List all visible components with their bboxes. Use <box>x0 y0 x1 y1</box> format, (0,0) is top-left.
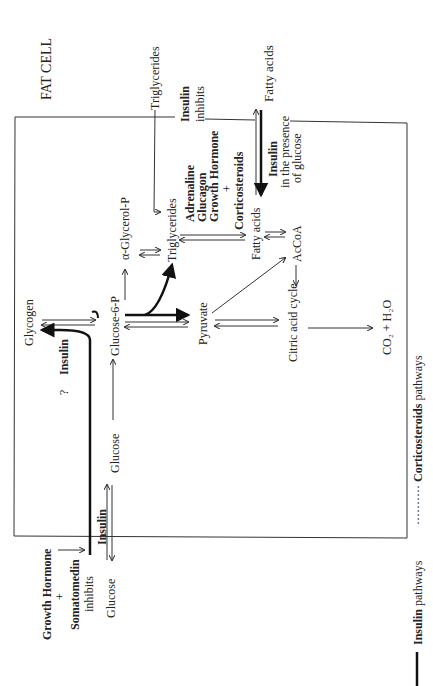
legend-corticosteroids-suffix: pathways <box>411 355 425 403</box>
legend-insulin-label: Insulin <box>411 609 425 645</box>
node-pyruvate: Pyruvate <box>196 302 210 345</box>
label-lipolysis-hormone-4: Corticosteroids <box>232 152 246 230</box>
label-lipolysis-hormone-3: Growth Hormone <box>207 131 221 222</box>
node-triglycerides: Triglycerides <box>165 198 179 262</box>
node-glucose-external: Glucose <box>104 579 118 618</box>
node-triglycerides-external: Triglycerides <box>148 46 162 110</box>
label-insulin-inhibits: Insulin <box>178 86 192 122</box>
label-somatomedin: Somatomedin <box>68 559 82 630</box>
label-insulin-inhibits-2: inhibits <box>193 86 207 122</box>
node-glucose-6-p: Glucose-6-P <box>108 296 122 356</box>
node-citric-acid-cycle: Citric acid cycle <box>286 283 300 362</box>
label-question: ? <box>57 390 71 395</box>
label-insulin-transport: Insulin <box>95 509 109 545</box>
label-gh-inhibits: inhibits <box>82 576 96 612</box>
node-glucose-intracellular: Glucose <box>108 434 122 473</box>
legend-insulin-pathways: Insulin pathways <box>411 561 425 645</box>
legend-corticosteroids-label: Corticosteroids <box>411 404 425 482</box>
legend-corticosteroids-pathways: ·········· Corticosteroids pathways <box>411 355 425 525</box>
label-growth-hormone: Growth Hormone <box>40 549 54 640</box>
label-gh-plus: + <box>53 593 67 600</box>
label-insulin-glycogen: Insulin <box>57 339 71 375</box>
node-alpha-glycerol-p: α-Glycerol-P <box>118 197 132 260</box>
legend-dotted-line: ·········· <box>411 485 425 525</box>
node-fatty-acids-external: Fatty acids <box>262 45 276 102</box>
node-co2-h2o: CO₂ + H₂O <box>380 300 394 355</box>
node-fatty-acids: Fatty acids <box>249 208 263 260</box>
diagram-title: FAT CELL <box>40 38 54 100</box>
legend-insulin-suffix: pathways <box>411 561 425 609</box>
node-accoa: AcCoA <box>290 225 304 262</box>
node-glycogen: Glycogen <box>22 299 36 346</box>
label-of-glucose: of glucose <box>290 133 304 183</box>
